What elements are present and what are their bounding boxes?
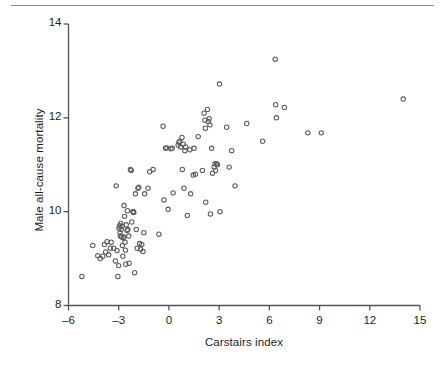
data-point-marker [401, 97, 405, 101]
x-tick-label: –6 [54, 314, 84, 326]
data-point-marker [205, 107, 209, 111]
data-point-marker [122, 203, 126, 207]
data-point-marker [121, 254, 125, 258]
data-point-marker [207, 117, 211, 121]
data-point-marker [227, 165, 231, 169]
data-point-marker [203, 126, 207, 130]
plot-canvas [0, 0, 441, 365]
data-point-marker [130, 220, 134, 224]
x-tick-label: 6 [254, 314, 284, 326]
data-point-marker [180, 135, 184, 139]
data-point-marker [122, 214, 126, 218]
data-point-marker [116, 274, 120, 278]
data-point-marker [117, 263, 121, 267]
data-point-marker [113, 259, 117, 263]
x-tick-label: 0 [154, 314, 184, 326]
data-point-marker [142, 231, 146, 235]
data-point-marker [166, 207, 170, 211]
y-tick-label: 14 [36, 16, 62, 28]
data-point-marker [274, 116, 278, 120]
axes-group [68, 24, 420, 306]
data-point-marker [200, 168, 204, 172]
data-point-marker [181, 142, 185, 146]
data-point-marker [208, 212, 212, 216]
data-point-marker [91, 243, 95, 247]
data-point-marker [245, 121, 249, 125]
x-axis-title: Carstairs index [68, 336, 420, 348]
data-point-marker [218, 209, 222, 213]
x-tick-label: –3 [104, 314, 134, 326]
x-tick-label: 15 [405, 314, 435, 326]
data-point-marker [182, 186, 186, 190]
scatter-plot-figure: Male all-cause mortality Carstairs index… [0, 0, 441, 365]
data-point-marker [134, 227, 138, 231]
data-point-marker [106, 253, 110, 257]
data-point-marker [115, 248, 119, 252]
data-point-marker [188, 192, 192, 196]
data-point-marker [146, 186, 150, 190]
data-point-marker [142, 192, 146, 196]
data-point-marker [180, 167, 184, 171]
y-axis-title: Male all-cause mortality [33, 55, 45, 285]
data-point-marker [209, 146, 213, 150]
data-point-marker [224, 125, 228, 129]
y-tick-label: 8 [36, 298, 62, 310]
data-point-marker [151, 167, 155, 171]
data-point-marker [161, 124, 165, 128]
data-point-marker [273, 57, 277, 61]
data-point-marker [282, 105, 286, 109]
x-tick-label: 9 [305, 314, 335, 326]
data-point-marker [125, 209, 129, 213]
data-point-marker [185, 213, 189, 217]
data-point-marker [260, 139, 264, 143]
data-point-marker [114, 184, 118, 188]
data-point-marker [123, 240, 127, 244]
data-point-marker [132, 270, 136, 274]
data-point-marker [204, 200, 208, 204]
data-point-marker [127, 234, 131, 238]
data-point-marker [196, 134, 200, 138]
data-point-marker [96, 254, 100, 258]
x-tick-label: 3 [204, 314, 234, 326]
data-point-marker [319, 131, 323, 135]
x-tick-label: 12 [355, 314, 385, 326]
data-point-marker [192, 146, 196, 150]
data-point-marker [230, 148, 234, 152]
data-point-marker [171, 191, 175, 195]
data-point-marker [102, 242, 106, 246]
data-point-marker [233, 184, 237, 188]
data-point-marker [162, 198, 166, 202]
data-point-marker [124, 223, 128, 227]
data-point-marker [157, 232, 161, 236]
y-tick-label: 12 [36, 110, 62, 122]
data-point-marker [123, 248, 127, 252]
data-points-group [80, 57, 406, 279]
data-point-marker [217, 82, 221, 86]
data-point-marker [274, 103, 278, 107]
data-point-marker [202, 111, 206, 115]
data-point-marker [133, 192, 137, 196]
data-point-marker [306, 131, 310, 135]
data-point-marker [80, 274, 84, 278]
y-tick-label: 10 [36, 204, 62, 216]
